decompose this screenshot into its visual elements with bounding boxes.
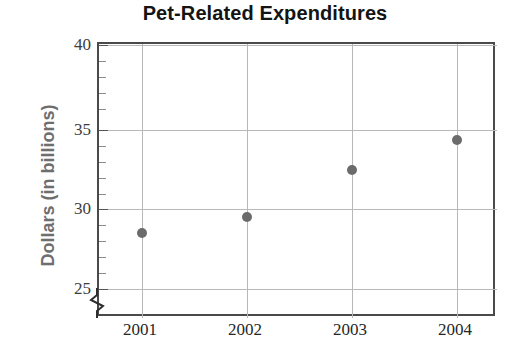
gridline-x-2002 <box>247 44 248 318</box>
axis-break-icon <box>88 288 108 318</box>
plot-area <box>97 42 495 316</box>
y-tick-minor-38 <box>99 77 106 78</box>
y-tick-label-40: 40 <box>51 36 91 53</box>
y-tick-minor-29 <box>99 225 106 226</box>
y-tick-minor-39 <box>99 61 106 62</box>
y-tick-minor-37 <box>99 93 106 94</box>
y-tick-minor-34 <box>99 146 106 147</box>
y-tick-minor-27 <box>99 257 106 258</box>
chart-title: Pet-Related Expenditures <box>0 2 530 25</box>
gridline-x-2001 <box>142 44 143 318</box>
y-tick-minor-33 <box>99 162 106 163</box>
datapoint-2002 <box>242 212 252 222</box>
y-tick-minor-26 <box>99 273 106 274</box>
datapoint-2003 <box>347 165 357 175</box>
y-tick-minor-32 <box>99 178 106 179</box>
gridline-y-25 <box>99 289 497 290</box>
y-tick-label-30: 30 <box>51 200 91 217</box>
chart-figure: Pet-Related Expenditures Dollars (in bil… <box>0 0 530 348</box>
gridline-y-40 <box>99 45 497 46</box>
y-tick-minor-28 <box>99 241 106 242</box>
gridline-x-2004 <box>457 44 458 318</box>
datapoint-2004 <box>452 135 462 145</box>
gridline-y-30 <box>99 209 497 210</box>
datapoint-2001 <box>137 228 147 238</box>
y-tick-major-30 <box>99 209 108 210</box>
x-axis-tick-labels: 2001 2002 2003 2004 <box>97 320 495 346</box>
y-tick-major-40 <box>99 45 108 46</box>
y-tick-major-35 <box>99 130 108 131</box>
x-tick-label-2003: 2003 <box>315 320 385 340</box>
gridline-y-35 <box>99 130 497 131</box>
x-tick-label-2001: 2001 <box>105 320 175 340</box>
x-tick-label-2004: 2004 <box>420 320 490 340</box>
y-tick-label-25: 25 <box>51 280 91 297</box>
y-axis-tick-labels: 40 35 30 25 <box>45 42 91 316</box>
y-tick-label-35: 35 <box>51 121 91 138</box>
gridline-x-2003 <box>352 44 353 318</box>
x-tick-label-2002: 2002 <box>210 320 280 340</box>
y-tick-minor-36 <box>99 109 106 110</box>
y-tick-minor-31 <box>99 194 106 195</box>
